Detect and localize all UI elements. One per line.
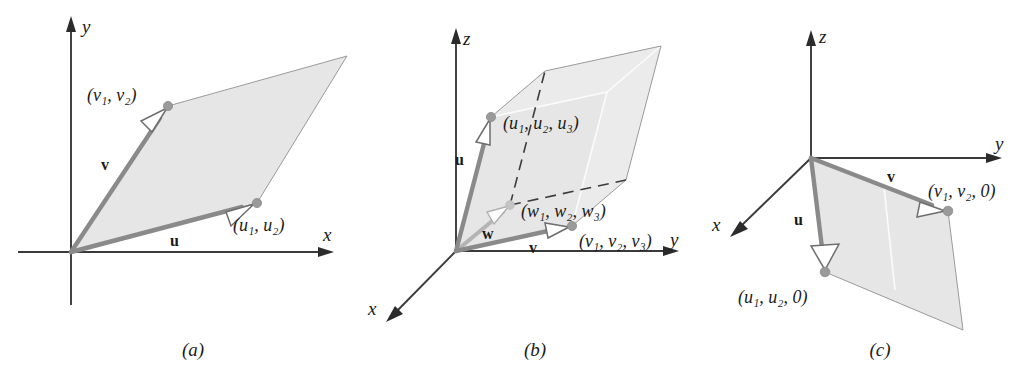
panel-b-caption: (b): [524, 339, 546, 361]
panel-c-z-axis-label: z: [818, 26, 827, 47]
panel-c-vector-v-endpoint-label: (v₁, v₂, 0): [928, 181, 995, 202]
panel-a-y-axis-label: y: [80, 16, 91, 37]
figure-root: y x u (u₁, u₂) v (v₁, v₂) (a): [0, 0, 1031, 380]
panel-b-vector-u-endpoint-label: (u₁, u₂, u₃): [503, 113, 579, 134]
panel-c-caption: (c): [869, 339, 890, 361]
panel-b-x-axis: [396, 251, 456, 312]
panel-c-vector-v-label: v: [887, 168, 895, 185]
vector-diagram-svg: y x u (u₁, u₂) v (v₁, v₂) (a): [0, 0, 1031, 380]
panel-a-y-axis-arrow-icon: [66, 16, 76, 32]
panel-b-y-axis-label: y: [668, 229, 679, 250]
panel-b-vector-v-label: v: [529, 239, 537, 256]
panel-c-x-axis-label: x: [711, 214, 721, 235]
panel-c-y-axis-label: y: [993, 133, 1004, 154]
panel-c-z-axis-arrow-icon: [806, 30, 816, 46]
panel-a-x-axis-arrow-icon: [318, 247, 334, 257]
panel-b-vector-w-endpoint-label: (w₁, w₂, w₃): [521, 201, 606, 222]
panel-a-vector-u-endpoint-label: (u₁, u₂): [233, 215, 285, 236]
panel-b-vector-v-endpoint-dot: [567, 221, 576, 230]
panel-a: y x u (u₁, u₂) v (v₁, v₂) (a): [18, 16, 347, 361]
panel-b-vector-u-endpoint-dot: [486, 112, 495, 121]
panel-b-x-axis-label: x: [367, 298, 377, 319]
panel-c-x-axis-arrow-icon: [730, 221, 748, 237]
panel-c-vector-u-endpoint-dot: [820, 267, 830, 277]
panel-c-vector-u-label: u: [794, 211, 803, 228]
panel-b-vector-u-arrowhead-icon: [476, 119, 490, 145]
panel-b: z y x w (w₁, w₂, w₃) u (u₁, u₂, u₃) v: [367, 28, 679, 361]
panel-b-z-axis-label: z: [462, 28, 471, 49]
panel-a-vector-u-endpoint-dot: [252, 198, 261, 207]
panel-b-vector-u-label: u: [455, 151, 464, 168]
panel-c: z y x v (v₁, v₂, 0) u (u₁, u₂, 0) (c): [711, 26, 1004, 361]
panel-a-vector-u-label: u: [170, 232, 179, 249]
panel-b-vector-w-label: w: [482, 225, 494, 242]
panel-b-z-axis-arrow-icon: [451, 28, 461, 44]
panel-c-y-axis-arrow-icon: [986, 153, 1002, 163]
panel-c-vector-u-endpoint-label: (u₁, u₂, 0): [738, 287, 808, 308]
panel-b-vector-w-endpoint-dot: [506, 201, 515, 210]
panel-a-vector-v-endpoint-label: (v₁, v₂): [87, 85, 136, 106]
panel-c-vector-v-endpoint-dot: [943, 206, 953, 216]
panel-a-caption: (a): [182, 339, 204, 361]
panel-a-x-axis-label: x: [322, 224, 332, 245]
panel-b-vector-v-endpoint-label: (v₁, v₂, v₃): [579, 231, 652, 252]
panel-a-vector-v-label: v: [101, 156, 109, 173]
panel-a-vector-v-endpoint-dot: [163, 101, 172, 110]
